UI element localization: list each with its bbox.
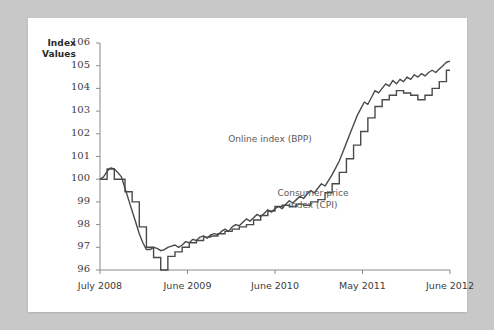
y-axis-ticks — [96, 43, 100, 270]
x-tick-label: July 2008 — [78, 280, 122, 291]
y-tick-label-105: 105 — [64, 59, 90, 70]
series-annotation-bpp: Online index (BPP) — [210, 134, 330, 146]
y-tick-label-100: 100 — [64, 172, 90, 183]
y-tick-label-98: 98 — [64, 218, 90, 229]
x-tick-label: May 2011 — [339, 280, 386, 291]
x-tick-label: June 2009 — [164, 280, 212, 291]
y-tick-label-104: 104 — [64, 81, 90, 92]
series-line-cpi — [100, 70, 450, 270]
y-tick-label-96: 96 — [64, 263, 90, 274]
axis-lines — [100, 43, 450, 270]
y-tick-label-97: 97 — [64, 240, 90, 251]
y-tick-label-103: 103 — [64, 104, 90, 115]
chart-area: Index Values 969798991001011021031041051… — [28, 18, 467, 312]
y-tick-label-102: 102 — [64, 127, 90, 138]
x-tick-label: June 2010 — [251, 280, 299, 291]
chart-plot-svg — [28, 18, 467, 312]
x-axis-ticks — [100, 270, 450, 274]
series-line-bpp — [100, 61, 450, 251]
x-tick-label: June 2012 — [426, 280, 474, 291]
chart-card: Index Values 969798991001011021031041051… — [28, 18, 467, 312]
y-tick-label-101: 101 — [64, 150, 90, 161]
series-annotation-cpi: Consumer price index (CPI) — [253, 188, 373, 211]
y-tick-label-99: 99 — [64, 195, 90, 206]
y-tick-label-106: 106 — [64, 36, 90, 47]
